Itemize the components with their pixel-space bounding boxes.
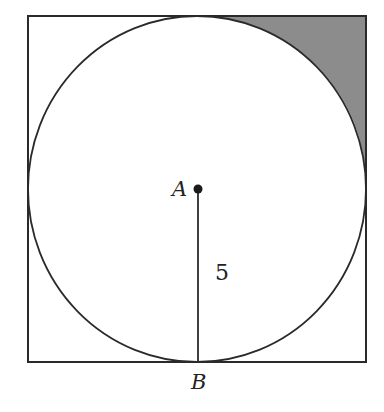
label-a: A — [170, 177, 187, 201]
circle-in-square-diagram: A B 5 — [0, 0, 384, 412]
center-point-a — [194, 185, 203, 194]
label-radius: 5 — [215, 260, 229, 285]
shaded-corner-region — [197, 16, 366, 189]
label-b: B — [190, 370, 206, 394]
